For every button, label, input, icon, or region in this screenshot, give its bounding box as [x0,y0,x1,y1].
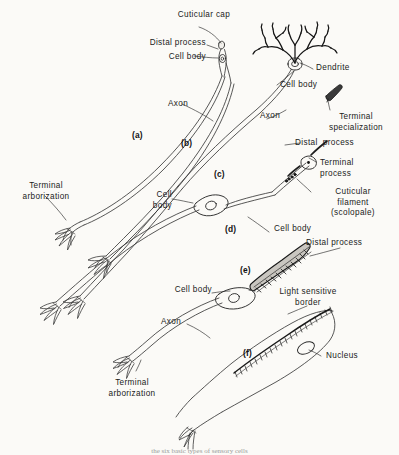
label-cell-body-d: Cell body [274,224,311,235]
label-cuticular-cap: Cuticular cap [156,10,252,21]
panel-key-a: (a) [132,130,143,140]
label-cell-body-c: Cell body [128,190,172,211]
neuron-b [88,63,234,279]
label-axon-c: Axon [260,111,280,122]
label-nucleus: Nucleus [326,351,358,362]
label-light-sensitive-border: Light sensitive border [268,287,348,308]
figure-caption: the six basic types of sensory cells [0,447,399,455]
label-distal-process-e: Distal process [306,238,362,249]
label-axon-e: Axon [161,317,181,328]
label-dendrite: Dendrite [316,63,350,74]
label-cell-body-e: Cell body [148,285,212,296]
label-terminal-specialization: Terminal specialization [320,112,392,133]
panel-key-f: (f) [243,348,252,358]
panel-key-c: (c) [214,169,225,179]
label-terminal-arborization-bottom: Terminal arborization [88,378,176,399]
panel-key-d: (d) [225,224,236,234]
label-terminal-arborization-left: Terminal arborization [2,181,90,202]
neuron-a [55,41,226,250]
label-distal-process-c: Distal process [295,138,354,149]
panel-key-b: (b) [181,138,192,148]
neuron-f [176,307,335,449]
label-terminal-process: Terminal process [320,158,354,179]
label-distal-process-top: Distal process [116,38,206,49]
panel-key-e: (e) [240,265,251,275]
label-cell-body-dendritic: Cell body [280,80,317,91]
neuron-e [113,243,311,379]
label-cuticular-filament: Cuticular filament (scolopale) [315,187,391,219]
label-axon-a: Axon [168,99,188,110]
label-cell-body-top: Cell body [130,52,206,63]
neuron-c [63,22,342,319]
